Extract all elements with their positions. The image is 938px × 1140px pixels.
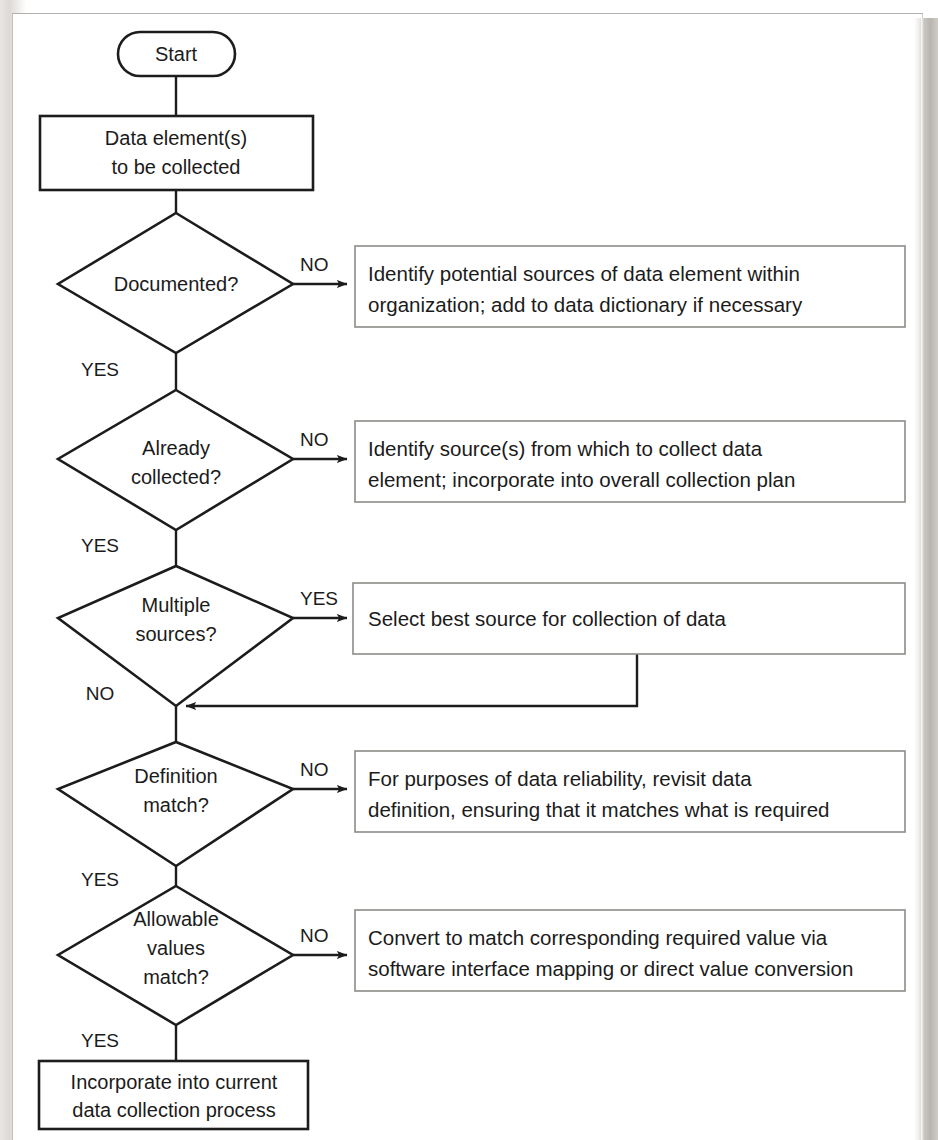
edge-label-already-collected-no: NO [300, 429, 329, 450]
node-identify-potential-line2: organization; add to data dictionary if … [368, 293, 803, 316]
node-allowable-values-line3: match? [143, 966, 209, 988]
node-allowable-values-line2: values [147, 937, 205, 959]
edge-label-allowable-values-yes: YES [81, 1030, 119, 1051]
node-revisit-definition-line1: For purposes of data reliability, revisi… [368, 767, 752, 790]
edge-label-documented-yes: YES [81, 359, 119, 380]
node-definition-match-line1: Definition [134, 765, 217, 787]
node-start[interactable]: Start [118, 32, 235, 76]
node-identify-sources-line2: element; incorporate into overall collec… [368, 468, 795, 491]
node-select-best-source[interactable]: Select best source for collection of dat… [353, 583, 905, 654]
node-identify-sources[interactable]: Identify source(s) from which to collect… [355, 421, 905, 502]
node-incorporate-line1: Incorporate into current [71, 1071, 278, 1093]
node-multiple-sources-line2: sources? [135, 623, 216, 645]
node-definition-match-line2: match? [143, 794, 209, 816]
edge-label-documented-no: NO [300, 254, 329, 275]
edge-label-allowable-values-no: NO [300, 925, 329, 946]
node-allowable-values-line1: Allowable [133, 908, 219, 930]
edge-label-definition-match-no: NO [300, 759, 329, 780]
node-revisit-definition[interactable]: For purposes of data reliability, revisi… [355, 751, 905, 832]
node-documented-label: Documented? [114, 273, 239, 295]
node-already-collected[interactable]: Already collected? [58, 390, 293, 530]
node-identify-potential[interactable]: Identify potential sources of data eleme… [355, 246, 905, 327]
scanned-page: Start Data element(s) to be collected Do… [0, 0, 938, 1140]
node-identify-potential-line1: Identify potential sources of data eleme… [368, 262, 800, 285]
node-incorporate[interactable]: Incorporate into current data collection… [39, 1061, 308, 1129]
edge-label-multiple-sources-yes: YES [300, 588, 338, 609]
node-data-element-line1: Data element(s) [105, 127, 247, 149]
edge-label-definition-match-yes: YES [81, 869, 119, 890]
node-definition-match[interactable]: Definition match? [58, 742, 293, 866]
node-data-element-line2: to be collected [112, 156, 241, 178]
node-incorporate-line2: data collection process [72, 1099, 275, 1121]
node-already-collected-line1: Already [142, 437, 210, 459]
node-documented[interactable]: Documented? [58, 213, 293, 353]
node-allowable-values[interactable]: Allowable values match? [58, 886, 293, 1025]
node-start-label: Start [155, 43, 198, 65]
node-data-element[interactable]: Data element(s) to be collected [40, 116, 313, 190]
connector-select-best-source-return-loop [186, 654, 637, 706]
node-revisit-definition-line2: definition, ensuring that it matches wha… [368, 798, 830, 821]
node-convert-values-line2: software interface mapping or direct val… [368, 957, 853, 980]
node-multiple-sources-line1: Multiple [142, 594, 211, 616]
edge-label-already-collected-yes: YES [81, 535, 119, 556]
flowchart-canvas: Start Data element(s) to be collected Do… [0, 0, 938, 1140]
edge-label-multiple-sources-no: NO [86, 683, 115, 704]
node-convert-values[interactable]: Convert to match corresponding required … [355, 910, 905, 991]
node-already-collected-line2: collected? [131, 466, 221, 488]
node-convert-values-line1: Convert to match corresponding required … [368, 926, 828, 949]
node-select-best-source-line1: Select best source for collection of dat… [368, 607, 726, 630]
node-identify-sources-line1: Identify source(s) from which to collect… [368, 437, 763, 460]
